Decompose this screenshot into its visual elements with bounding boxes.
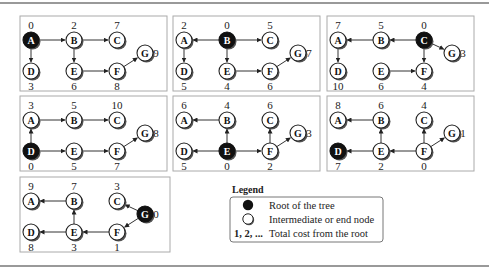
cost-label-e: 2 [378,160,384,172]
node-label: E [71,66,78,77]
node-label: C [266,115,273,126]
cost-label-g: 8 [153,127,159,139]
node-label: F [267,146,273,157]
tree-panel-root-g: A9B7C3D8E3F1G0 [20,177,170,253]
node-label: A [180,35,188,46]
legend-item-node: Intermediate or end node [269,214,375,225]
node-label: G [448,128,456,139]
node-label: E [224,146,231,157]
node-label: C [420,115,427,126]
cost-label-c: 5 [267,19,273,31]
tree-panel-root-e: A6B4C6D5E0F2G3 [173,96,320,172]
node-label: A [27,35,35,46]
cost-label-f: 8 [114,80,120,92]
node-label: F [114,66,120,77]
cost-label-e: 0 [224,160,230,172]
cost-label-f: 4 [421,80,427,92]
cost-label-d: 7 [335,160,341,172]
cost-label-c: 3 [114,180,120,192]
node-label: F [267,66,273,77]
cost-label-b: 0 [224,19,230,31]
node-label: D [27,227,34,238]
node-label: D [180,146,187,157]
cost-label-a: 2 [181,19,187,31]
node-label: C [113,35,120,46]
cost-label-f: 6 [267,80,273,92]
node-label: F [421,66,427,77]
open-node-icon [243,214,253,224]
node-label: B [71,196,78,207]
node-label: E [71,146,78,157]
cost-label-g: 3 [306,127,312,139]
cost-label-g: 3 [460,47,466,59]
cost-label-b: 6 [378,99,384,111]
node-label: D [180,66,187,77]
cost-label-c: 4 [421,99,427,111]
cost-label-a: 6 [181,99,187,111]
node-label: F [114,227,120,238]
cost-label-d: 8 [28,241,34,253]
node-label: G [141,209,149,220]
cost-label-a: 8 [335,99,341,111]
legend-item-cost: Total cost from the root [269,228,368,239]
cost-label-b: 4 [224,99,230,111]
cost-label-b: 5 [71,99,77,111]
node-label: G [294,128,302,139]
node-label: G [294,48,302,59]
cost-label-e: 6 [71,80,77,92]
node-label: D [334,66,341,77]
node-label: A [27,115,35,126]
node-label: D [27,66,34,77]
node-label: C [113,196,120,207]
node-label: B [71,115,78,126]
tree-panel-root-d: A3B5C10D0E5F7G8 [20,96,167,172]
cost-label-f: 1 [114,241,120,253]
node-label: B [224,35,231,46]
node-label: A [180,115,188,126]
node-label: E [378,146,385,157]
cost-label-g: 9 [153,47,159,59]
cost-label-b: 2 [71,19,77,31]
node-label: E [224,66,231,77]
cost-label-b: 5 [378,19,384,31]
cost-label-e: 4 [224,80,230,92]
legend: Legend Root of the tree Intermediate or … [230,184,383,242]
cost-label-d: 0 [28,160,34,172]
node-label: A [334,35,342,46]
tree-panel-root-b: A2B0C5D5E4F6G7 [173,16,320,92]
cost-label-d: 5 [181,160,187,172]
node-label: D [27,146,34,157]
tree-panel-root-f: A8B6C4D7E2F0G1 [327,96,474,172]
cost-label-f: 0 [421,160,427,172]
tree-panel-root-a: A0B2C7D3E6F8G9 [20,16,167,92]
node-label: B [378,115,385,126]
node-label: D [334,146,341,157]
node-label: A [334,115,342,126]
legend-title: Legend [232,184,264,195]
cost-label-e: 3 [71,241,77,253]
cost-label-c: 10 [112,99,124,111]
cost-label-b: 7 [71,180,77,192]
node-label: B [224,115,231,126]
cost-label-d: 3 [28,80,34,92]
node-label: B [71,35,78,46]
cost-label-a: 7 [335,19,341,31]
node-label: C [113,115,120,126]
spt-figure: A0B2C7D3E6F8G9A2B0C5D5E4F6G7A7B5C0D10E6F… [0,0,489,274]
node-label: G [141,128,149,139]
legend-symbol-cost: 1, 2, ... [234,228,263,239]
cost-label-a: 0 [28,19,34,31]
node-label: F [421,146,427,157]
cost-label-g: 0 [153,208,159,220]
node-label: G [448,48,456,59]
cost-label-a: 3 [28,99,34,111]
node-label: G [141,48,149,59]
cost-label-d: 5 [181,80,187,92]
cost-label-d: 10 [333,80,345,92]
cost-label-a: 9 [28,180,34,192]
node-label: E [71,227,78,238]
cost-label-e: 6 [378,80,384,92]
node-label: F [114,146,120,157]
node-label: A [27,196,35,207]
cost-label-c: 0 [421,19,427,31]
